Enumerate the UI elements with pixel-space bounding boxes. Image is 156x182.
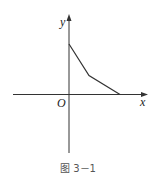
coordinate-diagram: y O x 图 3－1 xyxy=(0,0,156,182)
function-graph xyxy=(69,44,120,95)
figure-caption: 图 3－1 xyxy=(60,163,96,174)
origin-label: O xyxy=(57,96,66,110)
x-axis-label: x xyxy=(139,95,146,109)
y-axis-label: y xyxy=(59,15,66,29)
y-axis-arrow-icon xyxy=(67,14,72,21)
